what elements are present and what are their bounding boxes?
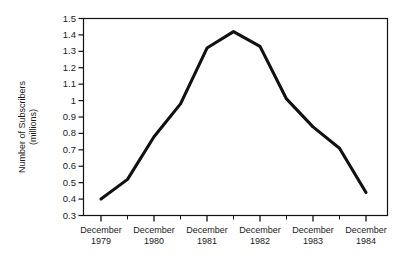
x-axis-tick-label-year: 1980 [126, 236, 182, 247]
x-axis-tick-label-month: December [80, 225, 122, 235]
x-axis-tick-label-month: December [292, 225, 334, 235]
y-axis-tick-marks [79, 19, 84, 216]
x-axis-tick-label: December1979 [73, 225, 129, 247]
x-axis-tick-label-month: December [186, 225, 228, 235]
subscribers-line [101, 32, 366, 199]
y-axis-tick-label: 0.5 [50, 178, 76, 187]
y-axis-tick-label: 0.7 [50, 145, 76, 154]
x-axis-tick-label: December1983 [285, 225, 341, 247]
y-axis-tick-label: 0.6 [50, 161, 76, 170]
y-axis-tick-label: 1 [50, 96, 76, 105]
x-axis-tick-label-year: 1984 [338, 236, 394, 247]
x-axis-tick-label-year: 1979 [73, 236, 129, 247]
y-axis-tick-label: 0.8 [50, 128, 76, 137]
x-axis-tick-label-month: December [345, 225, 387, 235]
y-axis-tick-label: 0.4 [50, 194, 76, 203]
y-axis-tick-label: 1.1 [50, 79, 76, 88]
y-axis-tick-label: 1.3 [50, 46, 76, 55]
x-axis-tick-marks [101, 216, 366, 222]
y-axis-tick-label: 0.9 [50, 112, 76, 121]
y-axis-tick-label: 0.3 [50, 211, 76, 220]
y-axis-title-line1: Number of Subscribers [17, 81, 27, 173]
x-axis-tick-label-year: 1981 [179, 236, 235, 247]
x-axis-tick-label-year: 1982 [232, 236, 288, 247]
x-axis-tick-label: December1980 [126, 225, 182, 247]
x-axis-tick-label-month: December [133, 225, 175, 235]
y-axis-tick-label: 1.4 [50, 30, 76, 39]
data-series-group [101, 32, 366, 199]
y-axis-tick-label: 1.5 [50, 14, 76, 23]
x-axis-tick-label-year: 1983 [285, 236, 341, 247]
axis-frame [84, 19, 388, 216]
y-axis-title-line2: (millions) [28, 109, 38, 145]
x-axis-tick-label: December1984 [338, 225, 394, 247]
x-axis-tick-label: December1982 [232, 225, 288, 247]
y-axis-title: Number of Subscribers (millions) [8, 52, 48, 202]
y-axis-tick-label: 1.2 [50, 63, 76, 72]
chart-figure: Number of Subscribers (millions) 1.51.41… [0, 0, 404, 264]
x-axis-tick-label: December1981 [179, 225, 235, 247]
x-axis-tick-label-month: December [239, 225, 281, 235]
